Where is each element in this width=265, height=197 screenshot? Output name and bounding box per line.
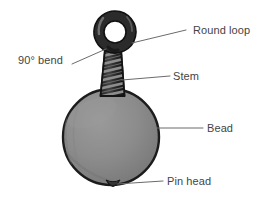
leader-line-stem (122, 76, 170, 80)
leader-line-bend (72, 49, 106, 64)
round-loop-shape (94, 11, 136, 53)
callout-label-bead: Bead (207, 122, 233, 135)
beaded-head-pin-diagram: Round loop 90° bend Stem Bead Pin head (0, 0, 265, 197)
round-loop-group (94, 11, 136, 53)
callout-label-ninety-degree-bend: 90° bend (18, 54, 63, 67)
callout-label-pin-head: Pin head (167, 175, 211, 188)
leader-line-round-loop (132, 30, 186, 43)
bead-group (63, 89, 159, 185)
callout-label-round-loop: Round loop (193, 24, 250, 37)
callout-label-stem: Stem (173, 70, 199, 83)
